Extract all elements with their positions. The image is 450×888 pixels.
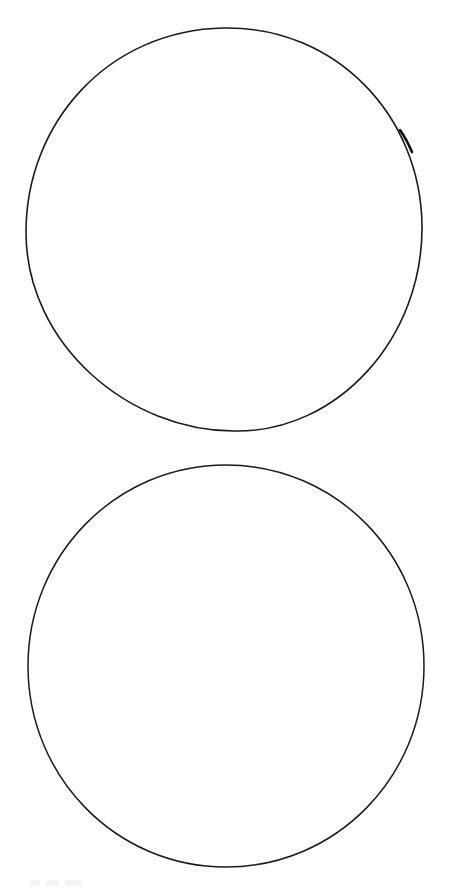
drawing-canvas — [0, 0, 450, 888]
watermark — [30, 880, 82, 886]
bottom-circle-outline — [28, 465, 424, 867]
top-circle-outline — [26, 28, 422, 431]
